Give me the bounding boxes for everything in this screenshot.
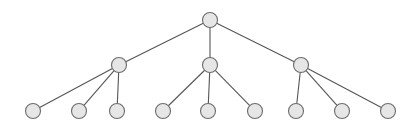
tree-edge (168, 70, 204, 106)
tree-internal-node[interactable] (203, 58, 218, 73)
tree-edge (217, 23, 295, 61)
tree-leaf-node[interactable] (26, 104, 41, 119)
tree-internal-node[interactable] (294, 58, 309, 73)
tree-leaf-node[interactable] (156, 104, 171, 119)
tree-diagram-canvas (0, 0, 416, 130)
tree-root-node[interactable] (203, 13, 218, 28)
tree-leaf-node[interactable] (110, 104, 125, 119)
tree-edge (215, 70, 250, 105)
tree-leaf-node[interactable] (381, 104, 396, 119)
tree-edge (297, 72, 300, 103)
tree-edge (208, 72, 209, 103)
tree-leaf-node[interactable] (72, 104, 87, 119)
tree-leaf-node[interactable] (335, 104, 350, 119)
tree-leaf-node[interactable] (248, 104, 263, 119)
tree-edge (117, 72, 118, 103)
tree-edge (40, 69, 113, 108)
tree-edge (126, 23, 204, 61)
tree-internal-node[interactable] (112, 58, 127, 73)
tree-leaf-node[interactable] (289, 104, 304, 119)
tree-leaf-node[interactable] (201, 104, 216, 119)
tree-diagram-figure (0, 0, 416, 130)
tree-edge (308, 69, 382, 108)
